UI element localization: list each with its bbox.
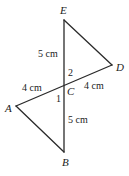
length-label-AC: 4 cm [22,82,42,93]
vertex-label-A: A [4,102,12,114]
angle-label-2: 2 [68,67,73,78]
vertex-label-C: C [67,85,75,97]
length-label-EC: 5 cm [38,48,58,59]
vertex-label-D: D [115,61,124,73]
vertex-label-B: B [62,156,69,168]
length-label-CB: 5 cm [68,114,88,125]
length-label-CD: 4 cm [84,80,104,91]
angle-label-1: 1 [56,93,61,104]
segment-ED [64,20,112,65]
vertex-label-E: E [59,4,67,16]
segment-AB [16,106,64,152]
geometry-diagram: E D C A B 5 cm 4 cm 4 cm 5 cm 1 2 [0,0,129,176]
